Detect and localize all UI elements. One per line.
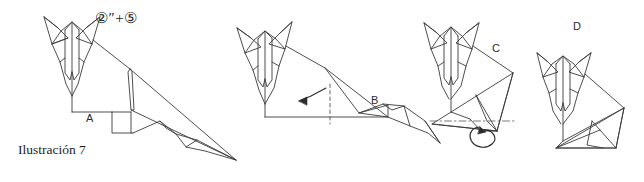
figure-d-group [537,53,624,148]
figure-label-c: C [492,42,500,54]
figure-c-group [424,23,513,131]
figure-label-a: A [86,112,94,124]
step-annotation: ②″+⑤ [95,9,138,27]
illustration-page: ②″+⑤ A B C D Ilustración 7 [0,0,644,182]
figure-label-b: B [371,94,379,106]
figure-label-d: D [573,20,581,32]
figure-a-group [44,17,236,160]
figure-caption: Ilustración 7 [18,142,86,158]
origami-fox-diagram [0,0,644,182]
figure-b-group [237,22,440,143]
